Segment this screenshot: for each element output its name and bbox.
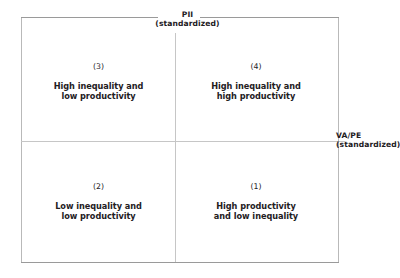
horizontal-axis-line [21,141,345,142]
vertical-axis-label: PII (standardized) [0,10,379,28]
quadrant-bottom-right-line1: High productivity [216,201,296,211]
quadrant-top-right: (4) High inequality and high productivit… [180,62,332,101]
vertical-axis-line [175,33,176,262]
horizontal-axis-label-qualifier: (standardized) [336,140,400,149]
quadrant-top-right-description: High inequality and high productivity [180,82,332,101]
quadrant-top-left-line1: High inequality and [54,81,144,91]
quadrant-bottom-left-line1: Low inequality and [55,201,142,211]
quadrant-bottom-right-description: High productivity and low inequality [180,202,332,221]
quadrant-bottom-left-number: (2) [26,182,171,192]
horizontal-axis-label: VA/PE (standardized) [336,131,400,149]
quadrant-bottom-left-line2: low productivity [26,212,171,222]
quadrant-top-left-line2: low productivity [26,92,171,102]
quadrant-bottom-left-description: Low inequality and low productivity [26,202,171,221]
quadrant-top-left: (3) High inequality and low productivity [26,62,171,101]
quadrant-bottom-right-number: (1) [180,182,332,192]
quadrant-top-left-number: (3) [26,62,171,72]
quadrant-top-right-number: (4) [180,62,332,72]
quadrant-top-right-line1: High inequality and [211,81,301,91]
quadrant-top-right-line2: high productivity [180,92,332,102]
quadrant-bottom-right-line2: and low inequality [180,212,332,222]
quadrant-top-left-description: High inequality and low productivity [26,82,171,101]
quadrant-bottom-right: (1) High productivity and low inequality [180,182,332,221]
vertical-axis-label-name: PII [0,10,379,19]
quadrant-bottom-left: (2) Low inequality and low productivity [26,182,171,221]
frame-border-bottom [21,262,339,263]
horizontal-axis-label-name: VA/PE [336,131,361,140]
frame-border-left [21,17,22,263]
vertical-axis-label-qualifier: (standardized) [0,19,379,28]
